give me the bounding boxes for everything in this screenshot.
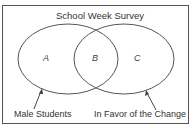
set-male-students-ellipse [18, 24, 118, 94]
region-b-label: B [92, 54, 98, 63]
diagram-title: School Week Survey [56, 11, 144, 21]
region-c-label: C [134, 54, 141, 63]
arrow-in-favor-icon [145, 90, 156, 110]
set-label-male-students: Male Students [14, 110, 72, 119]
region-a-label: A [43, 54, 49, 63]
set-in-favor-ellipse [74, 24, 174, 94]
set-label-in-favor: In Favor of the Change [94, 110, 186, 119]
arrow-male-students-icon [34, 88, 43, 109]
